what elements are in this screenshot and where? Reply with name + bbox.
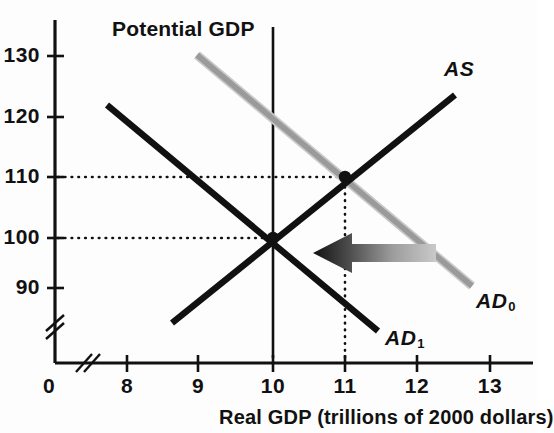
y-tick-label-100: 100 <box>0 226 40 247</box>
equilibrium-marker-initial <box>339 171 351 183</box>
x-tick-label-9: 9 <box>178 375 218 396</box>
y-tick-label-110: 110 <box>0 165 40 186</box>
x-tick-label-11: 11 <box>325 375 365 396</box>
y-tick-label-130: 130 <box>0 44 40 65</box>
ad0-curve-label-text: AD <box>476 289 507 312</box>
x-tick-label-12: 12 <box>397 375 437 396</box>
as-curve-label: AS <box>444 58 474 79</box>
x-tick-label-13: 13 <box>470 375 510 396</box>
curve-as <box>172 95 455 323</box>
ad0-curve-label-subscript: 0 <box>508 299 516 314</box>
x-axis-title: Real GDP (trillions of 2000 dollars) <box>219 407 554 427</box>
y-tick-label-90: 90 <box>0 276 40 297</box>
ad1-curve-label: AD1 <box>385 327 424 348</box>
x-tick-label-10: 10 <box>253 375 293 396</box>
ad1-curve-label-subscript: 1 <box>417 336 425 351</box>
potential-gdp-label: Potential GDP <box>112 18 255 39</box>
ad1-curve-label-text: AD <box>385 326 416 349</box>
origin-label: 0 <box>29 375 69 396</box>
x-tick-label-8: 8 <box>107 375 147 396</box>
curve-ad1 <box>107 105 378 331</box>
ad0-curve-label: AD0 <box>476 290 515 311</box>
y-tick-label-120: 120 <box>0 105 40 126</box>
equilibrium-marker-new <box>267 232 279 244</box>
